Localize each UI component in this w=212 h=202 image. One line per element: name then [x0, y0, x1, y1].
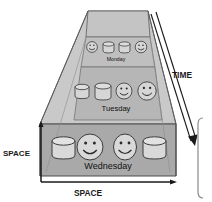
database-cylinder-icon: [95, 83, 111, 100]
database-cylinder-icon: [119, 42, 130, 53]
side-bracket: [198, 118, 203, 198]
database-cylinder-icon: [143, 137, 166, 159]
database-cylinder-icon: [52, 137, 75, 159]
smiley-face-icon: [116, 83, 132, 99]
space-time-diagram: Monday: [0, 0, 212, 202]
axis-label-space-vertical: SPACE: [3, 149, 31, 158]
diagram-canvas: Monday: [0, 0, 212, 202]
database-cylinder-icon: [103, 42, 114, 53]
box-back-panel: [86, 11, 150, 37]
database-cylinder-icon: [75, 84, 89, 98]
axis-label-time: TIME: [172, 70, 192, 80]
layer-label-wednesday: Wednesday: [84, 161, 132, 171]
axis-label-space-horizontal: SPACE: [74, 188, 103, 198]
smiley-face-icon: [135, 41, 147, 53]
smiley-face-icon: [87, 42, 98, 53]
smiley-face-icon: [114, 134, 137, 160]
smiley-face-icon: [138, 82, 156, 100]
arrow-head-time-icon: [188, 135, 198, 147]
axis-space-horizontal: [41, 179, 177, 184]
layer-label-tuesday: Tuesday: [102, 104, 131, 113]
arrow-head-right-icon: [170, 179, 177, 184]
smiley-face-icon: [77, 134, 103, 160]
layer-label-monday: Monday: [107, 56, 126, 62]
